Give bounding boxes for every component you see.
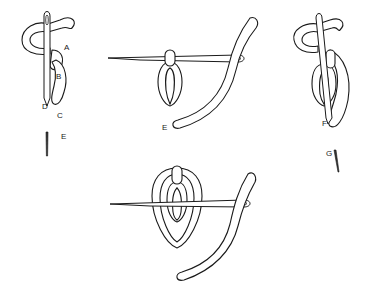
label-e-panel1: E xyxy=(61,133,66,141)
panel-2-illustration xyxy=(108,18,258,129)
label-d: D xyxy=(42,103,48,111)
label-a: A xyxy=(64,44,69,52)
panel-3-illustration xyxy=(294,14,349,173)
needle-eye xyxy=(46,15,49,25)
label-f: F xyxy=(322,120,327,128)
loop-b xyxy=(52,60,66,104)
stitch-anchor xyxy=(165,50,175,66)
label-c: C xyxy=(57,112,63,120)
label-g: G xyxy=(326,150,332,158)
label-b: B xyxy=(56,73,61,81)
needle-2 xyxy=(108,55,244,62)
needle-1 xyxy=(44,12,50,107)
panel-1-illustration xyxy=(22,12,74,157)
stitch-diagram xyxy=(0,0,384,294)
needle-small-e xyxy=(46,132,48,156)
panel-4-illustration xyxy=(110,166,256,280)
needle-small-g xyxy=(334,150,339,172)
thread-2 xyxy=(173,18,258,129)
label-e-panel2: E xyxy=(162,124,167,132)
